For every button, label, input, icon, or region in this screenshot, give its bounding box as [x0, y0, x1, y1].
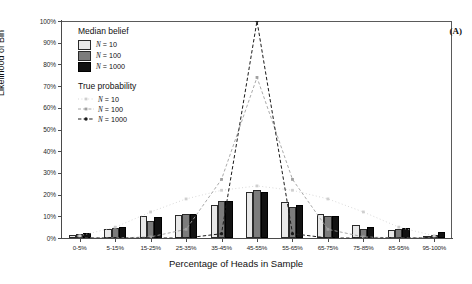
- bar-median_N1000-65-75%: [332, 216, 339, 238]
- bar-median_N100-25-35%: [182, 214, 189, 238]
- bar-median_N1000-75-85%: [367, 227, 374, 238]
- bar-median_N10-75-85%: [352, 225, 359, 238]
- y-axis-tick-label: 60%: [22, 104, 56, 111]
- x-axis-tick: [328, 238, 329, 242]
- bar-median_N10-45-55%: [246, 192, 253, 238]
- figure-panel-a: Likelihood of Bin 0%10%20%30%40%50%60%70…: [0, 0, 472, 284]
- bar-median_N1000-15-25%: [154, 217, 161, 238]
- bar-median_N1000-0-5%: [83, 233, 90, 238]
- x-axis-tick: [186, 238, 187, 242]
- legend-label: N = 10: [98, 95, 119, 104]
- bar-median_N100-0-5%: [76, 234, 83, 238]
- legend-line-icon: [78, 114, 94, 124]
- legend-item-true-100: N = 100: [78, 104, 198, 114]
- bar-median_N100-15-25%: [147, 221, 154, 238]
- bar-median_N1000-95-100%: [438, 232, 445, 239]
- bar-median_N10-0-5%: [69, 235, 76, 238]
- bar-median_N10-5-15%: [104, 229, 111, 238]
- bar-median_N1000-55-65%: [296, 205, 303, 238]
- x-axis-tick: [151, 238, 152, 242]
- y-axis-tick-label: 80%: [22, 61, 56, 68]
- bar-median_N10-15-25%: [140, 216, 147, 238]
- x-axis-tick: [222, 238, 223, 242]
- bar-median_N100-65-75%: [324, 216, 331, 238]
- panel-label: (A): [450, 26, 463, 36]
- legend-item-median-100: N = 100: [78, 50, 198, 61]
- legend-label: N = 1000: [96, 62, 125, 71]
- x-axis-tick: [80, 238, 81, 242]
- legend-items-median-belief: N = 10N = 100N = 1000: [78, 39, 198, 72]
- bar-median_N1000-25-35%: [190, 214, 197, 238]
- y-axis-tick-label: 40%: [22, 148, 56, 155]
- legend-item-median-1000: N = 1000: [78, 61, 198, 72]
- x-axis-tick: [434, 238, 435, 242]
- bar-median_N1000-5-15%: [119, 227, 126, 238]
- bar-median_N1000-35-45%: [225, 201, 232, 238]
- bar-median_N10-35-45%: [211, 205, 218, 238]
- x-axis-tick: [399, 238, 400, 242]
- legend-swatch-icon: [78, 51, 91, 61]
- legend-line-icon: [78, 104, 94, 114]
- bar-median_N10-95-100%: [423, 236, 430, 238]
- y-axis-title: Likelihood of Bin: [0, 30, 6, 96]
- bar-median_N1000-45-55%: [261, 192, 268, 238]
- x-axis-title: Percentage of Heads in Sample: [0, 258, 472, 269]
- y-axis-tick-label: 20%: [22, 191, 56, 198]
- bar-median_N10-55-65%: [281, 202, 288, 238]
- y-axis-tick-label: 90%: [22, 39, 56, 46]
- y-axis-tick-label: 10%: [22, 213, 56, 220]
- legend-items-true-probability: N = 10N = 100N = 1000: [78, 94, 198, 124]
- legend-label: N = 100: [96, 51, 121, 60]
- x-axis-tick-label: 95-100%: [411, 244, 457, 252]
- y-axis-tick-label: 0%: [22, 235, 56, 242]
- bar-median_N1000-85-95%: [402, 228, 409, 238]
- bar-median_N10-65-75%: [317, 214, 324, 238]
- bar-median_N100-55-65%: [289, 207, 296, 238]
- bar-median_N100-85-95%: [395, 229, 402, 238]
- y-axis-tick-label: 30%: [22, 169, 56, 176]
- legend-item-median-10: N = 10: [78, 39, 198, 50]
- legend-label: N = 100: [98, 105, 123, 114]
- legend-swatch-icon: [78, 62, 91, 72]
- bar-median_N10-85-95%: [388, 230, 395, 238]
- x-axis-tick: [363, 238, 364, 242]
- bar-median_N100-75-85%: [360, 229, 367, 238]
- y-axis-tick-label: 100%: [22, 18, 56, 25]
- y-axis-tick-label: 50%: [22, 126, 56, 133]
- bar-median_N100-95-100%: [431, 235, 438, 238]
- legend: Median belief N = 10N = 100N = 1000 True…: [78, 26, 198, 124]
- legend-label: N = 10: [96, 40, 117, 49]
- x-axis-tick: [115, 238, 116, 242]
- legend-title-true-probability: True probability: [78, 81, 198, 91]
- legend-item-true-10: N = 10: [78, 94, 198, 104]
- legend-item-true-1000: N = 1000: [78, 114, 198, 124]
- legend-line-icon: [78, 94, 94, 104]
- y-axis-tick-label: 70%: [22, 83, 56, 90]
- legend-group-true-probability: True probability N = 10N = 100N = 1000: [78, 81, 198, 124]
- x-axis-tick: [257, 238, 258, 242]
- x-axis-tick: [292, 238, 293, 242]
- y-axis-tick: [58, 238, 62, 239]
- bar-median_N100-35-45%: [218, 201, 225, 238]
- legend-title-median-belief: Median belief: [78, 26, 198, 36]
- bar-median_N100-45-55%: [253, 190, 260, 238]
- legend-label: N = 1000: [98, 115, 127, 124]
- bar-median_N10-25-35%: [175, 215, 182, 238]
- legend-swatch-icon: [78, 40, 91, 50]
- bar-median_N100-5-15%: [112, 228, 119, 238]
